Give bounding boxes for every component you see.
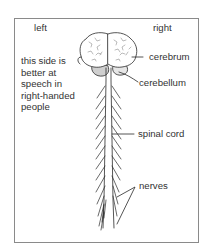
cerebellum-label: cerebellum [139, 77, 186, 89]
annotation-bracket [78, 57, 81, 64]
cerebrum-shape [80, 33, 137, 68]
nerves-leader [117, 187, 135, 224]
right-side-label: right [153, 22, 172, 34]
nervous-system-illustration [0, 0, 213, 252]
spinal-cord-label: spinal cord [138, 128, 184, 140]
nerves-shape [96, 86, 121, 230]
left-side-label: left [34, 22, 47, 34]
cerebrum-label: cerebrum [149, 51, 190, 63]
spinal-cord-shape [103, 68, 114, 228]
nerves-label: nerves [139, 180, 168, 192]
speech-side-annotation: this side is better at speech in right-h… [21, 55, 75, 113]
